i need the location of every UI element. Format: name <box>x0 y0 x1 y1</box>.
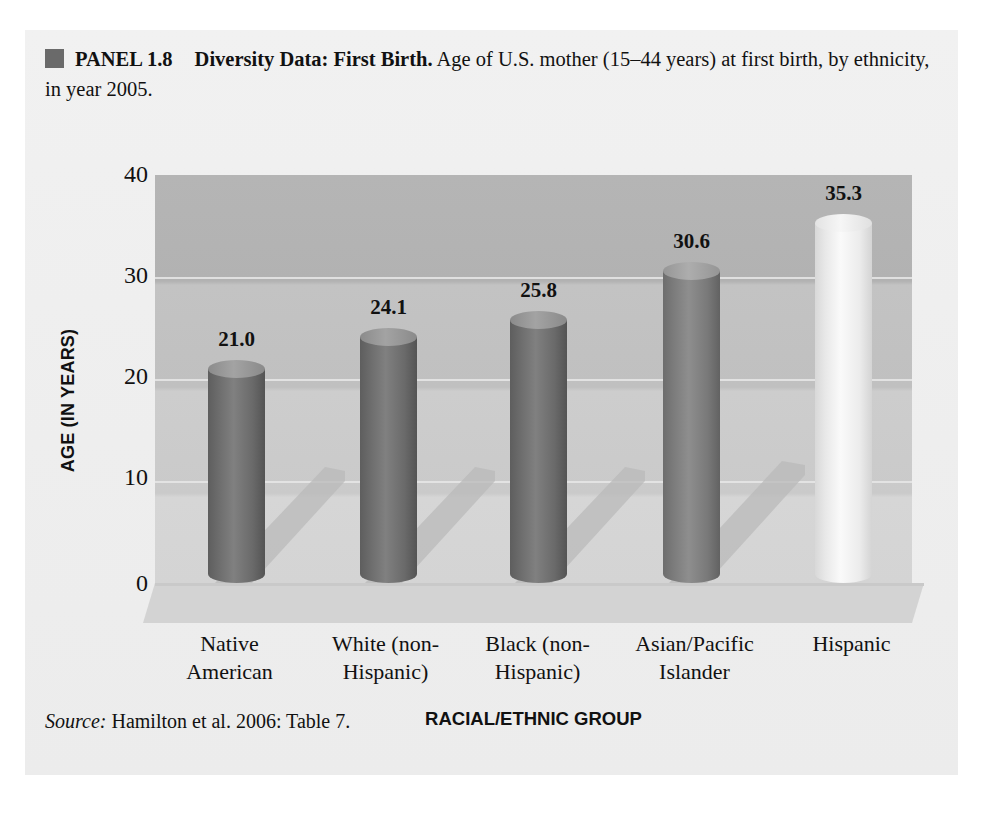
y-axis-ticks: 40 30 20 10 0 <box>73 130 148 590</box>
x-tick-label-native-american: Native American <box>147 630 312 686</box>
x-tick-label-white-non-hispanic: White (non- Hispanic) <box>303 630 468 686</box>
square-bullet-icon <box>45 49 64 68</box>
floor-polygon <box>143 583 924 623</box>
x-tick-label-hispanic: Hispanic <box>769 630 934 658</box>
bar-body <box>510 320 567 583</box>
source-prefix: Source: <box>45 710 106 732</box>
panel-caption: PANEL 1.8Diversity Data: First Birth. Ag… <box>45 44 935 104</box>
y-tick-label: 30 <box>88 263 148 287</box>
plot-floor <box>143 583 924 623</box>
bar-black-non-hispanic[interactable]: 25.8 <box>510 320 567 583</box>
x-tick-label-black-non-hispanic: Black (non- Hispanic) <box>455 630 620 686</box>
bar-body <box>663 271 720 583</box>
bar-native-american[interactable]: 21.0 <box>208 369 265 583</box>
y-tick-label: 40 <box>88 162 148 186</box>
y-tick-label: 10 <box>88 465 148 489</box>
panel-card: PANEL 1.8Diversity Data: First Birth. Ag… <box>25 30 958 775</box>
bar-value-label: 25.8 <box>520 278 557 303</box>
source-note: Source: Hamilton et al. 2006: Table 7. <box>45 710 350 733</box>
bar-series: 21.0 24.1 25.8 30.6 <box>155 175 912 583</box>
bar-hispanic[interactable]: 35.3 <box>815 223 872 583</box>
bar-white-non-hispanic[interactable]: 24.1 <box>360 337 417 583</box>
source-text: Hamilton et al. 2006: Table 7. <box>106 710 350 732</box>
y-tick-label: 20 <box>88 364 148 388</box>
bar-value-label: 24.1 <box>370 295 407 320</box>
chart-figure: AGE (IN YEARS) 40 30 20 10 0 <box>25 130 958 690</box>
bar-value-label: 21.0 <box>218 327 255 352</box>
x-axis-ticks: Native American White (non- Hispanic) Bl… <box>155 630 912 700</box>
x-tick-label-asian-pacific: Asian/Pacific Islander <box>607 630 782 686</box>
panel-number: PANEL 1.8 <box>75 48 173 70</box>
bar-top-cap <box>510 311 567 329</box>
bar-body <box>815 223 872 583</box>
y-tick-label: 0 <box>88 571 148 595</box>
bar-body <box>360 337 417 583</box>
bar-value-label: 30.6 <box>673 229 710 254</box>
panel-title: Diversity Data: First Birth. <box>195 48 433 70</box>
bar-top-cap <box>815 214 872 232</box>
bar-asian-pacific-islander[interactable]: 30.6 <box>663 271 720 583</box>
panel-description: Age of U.S. mother (15–44 years) at firs… <box>45 48 929 100</box>
bar-body <box>208 369 265 583</box>
page-root: PANEL 1.8Diversity Data: First Birth. Ag… <box>0 0 981 814</box>
bar-value-label: 35.3 <box>825 181 862 206</box>
bar-top-cap <box>360 328 417 346</box>
bar-top-cap <box>208 360 265 378</box>
bar-top-cap <box>663 262 720 280</box>
